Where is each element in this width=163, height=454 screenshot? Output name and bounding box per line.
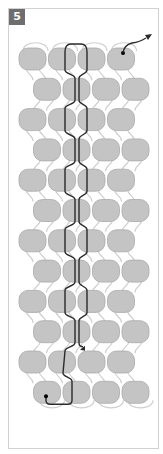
bead <box>108 169 135 191</box>
bead <box>108 109 135 131</box>
bead <box>34 321 61 343</box>
bead <box>78 48 105 70</box>
bead <box>93 139 120 161</box>
bead <box>19 48 46 70</box>
bead <box>93 260 120 282</box>
bead <box>63 139 90 161</box>
bead <box>78 109 105 131</box>
bead <box>63 78 90 100</box>
bead <box>63 260 90 282</box>
bead <box>49 109 76 131</box>
bead <box>122 321 149 343</box>
bead <box>93 78 120 100</box>
bead <box>19 290 46 312</box>
bead <box>108 290 135 312</box>
bead <box>93 381 120 403</box>
bead <box>93 200 120 222</box>
bead <box>78 351 105 373</box>
bead <box>34 139 61 161</box>
bead <box>34 260 61 282</box>
bead <box>122 381 149 403</box>
start-dot-icon <box>44 394 48 398</box>
bead <box>78 290 105 312</box>
bead <box>19 230 46 252</box>
bead <box>78 230 105 252</box>
bead <box>122 200 149 222</box>
bead <box>93 321 120 343</box>
bead <box>34 381 61 403</box>
bead <box>49 351 76 373</box>
bead <box>63 200 90 222</box>
bead <box>78 169 105 191</box>
bead <box>122 139 149 161</box>
bead <box>34 200 61 222</box>
bead <box>63 321 90 343</box>
bead <box>108 230 135 252</box>
bead <box>19 169 46 191</box>
bead <box>19 351 46 373</box>
bead <box>108 48 135 70</box>
bead <box>108 351 135 373</box>
bead <box>122 260 149 282</box>
bead <box>49 169 76 191</box>
bead-diagram <box>0 0 163 454</box>
bead <box>122 78 149 100</box>
bead <box>34 78 61 100</box>
bead <box>49 230 76 252</box>
bead <box>49 48 76 70</box>
bead <box>63 381 90 403</box>
exit-arrow-icon <box>145 34 152 40</box>
bead <box>49 290 76 312</box>
bead <box>19 109 46 131</box>
